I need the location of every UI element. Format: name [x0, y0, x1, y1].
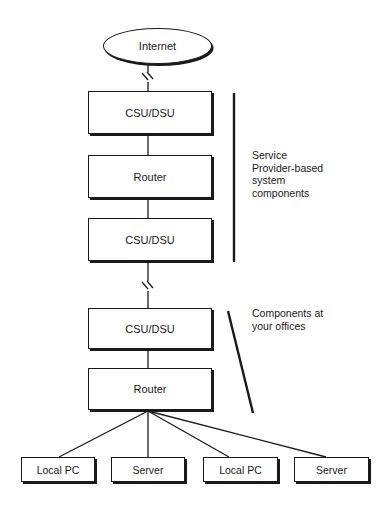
csu-dsu-node: CSU/DSU	[88, 91, 212, 134]
router-node: Router	[88, 368, 212, 410]
node-label: Local PC	[37, 464, 80, 476]
node-label: CSU/DSU	[125, 234, 175, 246]
provider-annotation: Service Provider-based system components	[252, 149, 323, 199]
server-node: Server	[294, 457, 369, 482]
server-node: Server	[111, 457, 185, 482]
local-pc-node: Local PC	[21, 457, 95, 482]
router-node: Router	[88, 155, 212, 198]
node-label: Router	[133, 171, 166, 183]
office-bracket-line	[228, 311, 253, 413]
node-label: Server	[316, 464, 347, 476]
csu-dsu-node: CSU/DSU	[88, 218, 212, 261]
internet-label: Internet	[139, 40, 176, 52]
node-label: Local PC	[219, 464, 262, 476]
node-label: CSU/DSU	[125, 107, 175, 119]
csu-dsu-node: CSU/DSU	[88, 308, 212, 349]
local-pc-node: Local PC	[203, 457, 278, 482]
node-label: Router	[133, 383, 166, 395]
node-label: Server	[133, 464, 164, 476]
node-label: CSU/DSU	[125, 323, 175, 335]
office-annotation: Components at your offices	[252, 307, 323, 332]
internet-node: Internet	[103, 28, 212, 64]
